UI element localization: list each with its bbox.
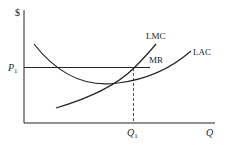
mr-label: MR: [149, 55, 163, 65]
lac-curve: [34, 44, 191, 84]
y-axis-label: $: [15, 7, 20, 18]
cost-curve-diagram: $ Q P1 Q1 LMC LAC MR: [0, 0, 229, 145]
x-axis-label: Q: [206, 127, 214, 138]
lac-label: LAC: [193, 47, 211, 57]
q1-label: Q1: [127, 127, 138, 140]
lmc-label: LMC: [146, 31, 166, 41]
p1-label: P1: [7, 62, 18, 75]
